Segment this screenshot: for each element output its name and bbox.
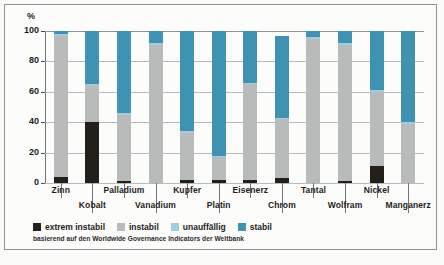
legend-label: stabil bbox=[250, 222, 272, 232]
chart-figure: % 100806040200 ZinnKobaltPalladiumVanadi… bbox=[0, 0, 444, 265]
bar-segment bbox=[401, 31, 415, 122]
bar-segment bbox=[85, 84, 99, 86]
y-axis-tick-mark bbox=[41, 92, 45, 93]
legend-item[interactable]: instabil bbox=[117, 222, 159, 232]
y-axis-tick-label: 20 bbox=[0, 147, 39, 157]
x-axis-label-kupfer: Kupfer bbox=[173, 185, 201, 195]
bar-segment bbox=[212, 31, 226, 156]
plot-area: 100806040200 bbox=[45, 31, 424, 183]
x-axis-labels: ZinnKobaltPalladiumVanadiumKupferPlatinE… bbox=[45, 183, 424, 217]
bar-segment bbox=[370, 166, 384, 183]
legend-item[interactable]: unauffällig bbox=[171, 222, 226, 232]
y-axis-tick-mark bbox=[41, 153, 45, 154]
bar-segment bbox=[212, 156, 226, 158]
bar-segment bbox=[338, 45, 352, 182]
x-axis-label-palladium: Palladium bbox=[103, 185, 144, 195]
bar-segment bbox=[54, 34, 68, 36]
bar-segment bbox=[243, 31, 257, 83]
source-note: basierend auf den Worldwide Governance I… bbox=[33, 235, 244, 242]
bar-tantal[interactable] bbox=[306, 31, 320, 183]
x-axis-label-wolfram: Wolfram bbox=[328, 200, 363, 210]
legend-label: extrem instabil bbox=[45, 222, 105, 232]
bar-segment bbox=[401, 124, 415, 183]
bar-vanadium[interactable] bbox=[149, 31, 163, 183]
bar-segment bbox=[306, 39, 320, 183]
bar-eisenerz[interactable] bbox=[243, 31, 257, 183]
bar-segment bbox=[370, 31, 384, 90]
x-axis-label-vanadium: Vanadium bbox=[135, 200, 176, 210]
legend-label: instabil bbox=[129, 222, 159, 232]
chart-legend: extrem instabilinstabilunauffälligstabil bbox=[33, 222, 272, 232]
bar-segment bbox=[370, 92, 384, 166]
bar-segment bbox=[54, 36, 68, 177]
bar-zinn[interactable] bbox=[54, 31, 68, 183]
bar-segment bbox=[275, 36, 289, 118]
y-axis-tick-mark bbox=[41, 61, 45, 62]
x-axis-label-chrom: Chrom bbox=[268, 200, 296, 210]
y-axis-tick-label: 80 bbox=[0, 55, 39, 65]
bar-segment bbox=[180, 133, 194, 180]
bar-segment bbox=[275, 118, 289, 120]
bar-segment bbox=[54, 31, 68, 34]
bar-segment bbox=[275, 119, 289, 178]
x-axis-label-kobalt: Kobalt bbox=[79, 200, 106, 210]
bar-segment bbox=[243, 84, 257, 180]
legend-item[interactable]: extrem instabil bbox=[33, 222, 105, 232]
bar-segment bbox=[149, 43, 163, 45]
bar-segment bbox=[85, 86, 99, 122]
bar-manganerz[interactable] bbox=[401, 31, 415, 183]
x-axis-label-manganerz: Manganerz bbox=[386, 200, 431, 210]
y-axis-tick-label: 0 bbox=[0, 177, 39, 187]
bar-platin[interactable] bbox=[212, 31, 226, 183]
bar-kupfer[interactable] bbox=[180, 31, 194, 183]
legend-swatch-icon bbox=[33, 223, 41, 231]
y-axis-unit-label: % bbox=[27, 11, 35, 21]
y-axis-tick-mark bbox=[41, 31, 45, 32]
gridline bbox=[45, 31, 424, 32]
gridline bbox=[45, 122, 424, 123]
bar-segment bbox=[117, 31, 131, 113]
gridline bbox=[45, 61, 424, 62]
bar-segment bbox=[306, 31, 320, 37]
bar-segment bbox=[85, 122, 99, 183]
bar-segment bbox=[370, 90, 384, 92]
bar-nickel[interactable] bbox=[370, 31, 384, 183]
x-axis-label-nickel: Nickel bbox=[364, 185, 390, 195]
bar-segment bbox=[180, 131, 194, 133]
y-axis-tick-mark bbox=[41, 122, 45, 123]
bar-chrom[interactable] bbox=[275, 31, 289, 183]
x-axis-label-platin: Platin bbox=[207, 200, 231, 210]
legend-item[interactable]: stabil bbox=[238, 222, 272, 232]
bar-segment bbox=[401, 122, 415, 124]
bar-wolfram[interactable] bbox=[338, 31, 352, 183]
x-axis-label-tantal: Tantal bbox=[301, 185, 326, 195]
x-axis-label-zinn: Zinn bbox=[52, 185, 70, 195]
bar-segment bbox=[149, 45, 163, 183]
gridline bbox=[45, 92, 424, 93]
y-axis-line bbox=[45, 31, 46, 183]
bar-segment bbox=[180, 31, 194, 131]
bar-segment bbox=[117, 115, 131, 182]
bar-segment bbox=[212, 157, 226, 180]
bar-segment bbox=[338, 43, 352, 45]
legend-label: unauffällig bbox=[183, 222, 226, 232]
legend-swatch-icon bbox=[238, 223, 246, 231]
gridline bbox=[45, 153, 424, 154]
bar-palladium[interactable] bbox=[117, 31, 131, 183]
bar-kobalt[interactable] bbox=[85, 31, 99, 183]
x-axis-label-eisenerz: Eisenerz bbox=[232, 185, 268, 195]
y-axis-tick-label: 60 bbox=[0, 86, 39, 96]
bar-segment bbox=[117, 113, 131, 115]
bar-segment bbox=[85, 31, 99, 84]
y-axis-tick-label: 40 bbox=[0, 116, 39, 126]
bar-segment bbox=[306, 37, 320, 39]
bar-segment bbox=[149, 31, 163, 43]
legend-swatch-icon bbox=[117, 223, 125, 231]
bar-segment bbox=[243, 83, 257, 85]
legend-swatch-icon bbox=[171, 223, 179, 231]
bar-segment bbox=[338, 31, 352, 43]
y-axis-tick-label: 100 bbox=[0, 25, 39, 35]
